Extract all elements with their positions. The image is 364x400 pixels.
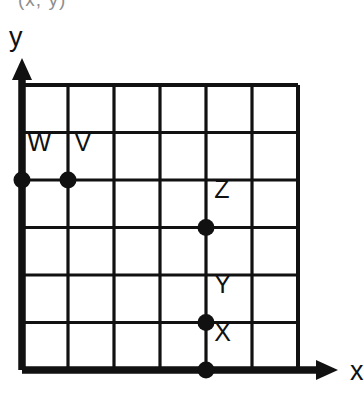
y-axis-label: y <box>9 22 23 52</box>
point-label-v: V <box>74 128 91 156</box>
plotted-point-z <box>198 219 215 236</box>
figure-canvas: (x, y) WVZYX yx <box>0 0 364 400</box>
axis-labels-layer: yx <box>9 22 364 386</box>
plotted-point-x <box>198 362 215 379</box>
arrow-right-icon <box>316 360 338 380</box>
point-label-w: W <box>28 128 52 156</box>
plotted-point-v <box>60 172 77 189</box>
point-label-x: X <box>214 318 231 346</box>
plotted-point-y <box>198 314 215 331</box>
plotted-points-layer: WVZYX <box>14 128 232 379</box>
point-label-y: Y <box>214 270 231 298</box>
point-label-z: Z <box>214 175 229 203</box>
grid-lines <box>22 85 298 370</box>
coordinate-grid-figure: WVZYX yx <box>0 0 364 400</box>
x-axis-label: x <box>350 356 364 386</box>
axes-layer <box>12 58 338 380</box>
arrow-up-icon <box>12 58 32 80</box>
plotted-point-w <box>14 172 31 189</box>
